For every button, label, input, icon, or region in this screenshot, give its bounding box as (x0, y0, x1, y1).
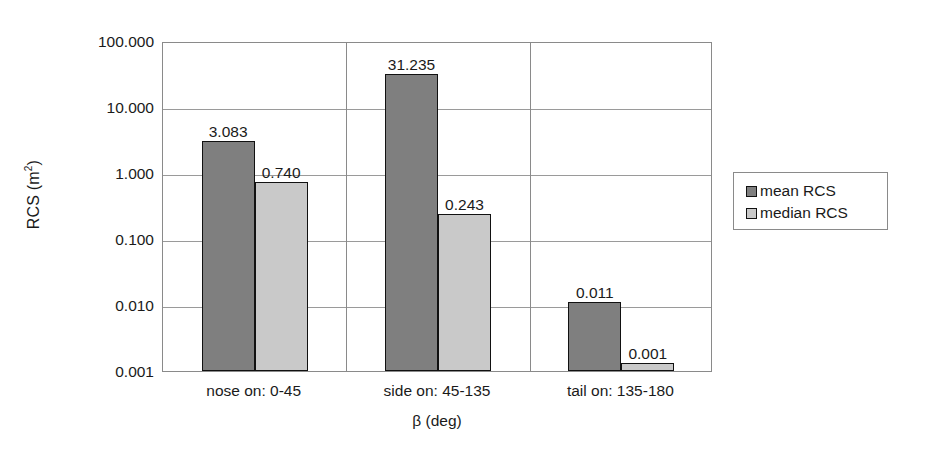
x-axis-tick-label: tail on: 135-180 (529, 382, 712, 400)
x-axis-title: β (deg) (162, 412, 712, 430)
legend-swatch-icon (746, 186, 757, 197)
y-axis-tick-100.000: 100.000 (64, 34, 154, 49)
bar-value-label: 31.235 (384, 57, 440, 73)
y-axis-tick-0.010: 0.010 (64, 298, 154, 313)
legend-item-median-rcs[interactable]: median RCS (746, 202, 887, 224)
bar-median-0 (255, 182, 308, 371)
legend-label: median RCS (760, 205, 848, 221)
bar-mean-0 (202, 141, 255, 371)
bar-median-1 (438, 214, 491, 371)
bar-value-label: 0.243 (437, 197, 493, 213)
y-axis-tick-labels: 100.00010.0001.0000.1000.0100.001 (62, 0, 154, 465)
y-axis-title-close: ) (25, 160, 42, 166)
rcs-bar-chart: RCS (m2) 100.00010.0001.0000.1000.0100.0… (0, 0, 930, 465)
y-axis-title: RCS (m2) (23, 135, 42, 255)
legend-swatch-icon (746, 208, 757, 219)
bar-value-label: 0.011 (567, 285, 623, 301)
plot-area: 3.0830.74031.2350.2430.0110.001 (162, 42, 712, 372)
bar-value-label: 0.001 (620, 346, 676, 362)
bar-value-label: 3.083 (200, 124, 256, 140)
y-axis-tick-0.100: 0.100 (64, 232, 154, 247)
bar-mean-1 (385, 74, 438, 371)
y-axis-title-main: RCS (m (25, 171, 42, 229)
y-axis-title-superscript: 2 (23, 166, 34, 172)
bar-value-label: 0.740 (253, 165, 309, 181)
y-axis-tick-10.000: 10.000 (64, 100, 154, 115)
bar-median-2 (621, 363, 674, 371)
x-axis-tick-label: nose on: 0-45 (162, 382, 345, 400)
legend: mean RCSmedian RCS (733, 172, 888, 230)
gridline-vertical (346, 43, 347, 371)
legend-item-mean-rcs[interactable]: mean RCS (746, 180, 887, 202)
y-axis-tick-0.001: 0.001 (64, 364, 154, 379)
x-axis-tick-label: side on: 45-135 (345, 382, 528, 400)
gridline-vertical (530, 43, 531, 371)
y-axis-tick-1.000: 1.000 (64, 166, 154, 181)
bar-mean-2 (568, 302, 621, 371)
legend-label: mean RCS (760, 183, 836, 199)
